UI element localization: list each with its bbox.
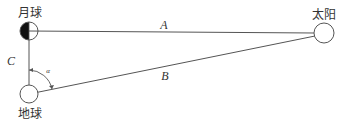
moon-earth-sun-diagram: 月球 地球 太阳 A B C α <box>0 0 350 125</box>
segment-b-earth-sun <box>29 36 315 94</box>
sun-label: 太阳 <box>312 7 336 22</box>
earth-label: 地球 <box>18 107 42 121</box>
angle-alpha-label: α <box>46 67 50 75</box>
segment-a-moon-sun <box>29 31 314 33</box>
segment-c-label: C <box>7 54 16 68</box>
segment-b-label: B <box>161 69 169 83</box>
moon-label: 月球 <box>18 6 42 20</box>
earth-icon <box>20 85 38 103</box>
segment-a-label: A <box>159 18 168 32</box>
sun-icon <box>314 23 334 43</box>
